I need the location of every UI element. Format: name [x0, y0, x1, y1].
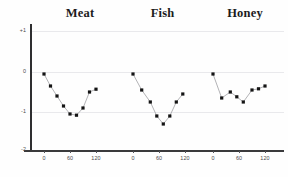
x-tick-label-honey-0: 0	[205, 155, 221, 161]
data-point-marker	[257, 87, 260, 90]
data-point-marker	[242, 100, 245, 103]
x-tick-honey-60	[239, 151, 240, 153]
figure-canvas: +1 0 -1 -2 Meat 0 60 120 Fish 0 60 120 H…	[0, 0, 288, 177]
x-tick-label-honey-120: 120	[257, 155, 273, 161]
series-honey	[0, 0, 288, 177]
data-point-marker	[211, 72, 214, 75]
data-point-marker	[229, 90, 232, 93]
x-tick-honey-120	[265, 151, 266, 153]
data-point-marker	[263, 84, 266, 87]
x-tick-honey-0	[213, 151, 214, 153]
data-point-marker	[235, 95, 238, 98]
x-tick-label-honey-60: 60	[231, 155, 247, 161]
data-point-marker	[220, 96, 223, 99]
data-point-marker	[250, 88, 253, 91]
